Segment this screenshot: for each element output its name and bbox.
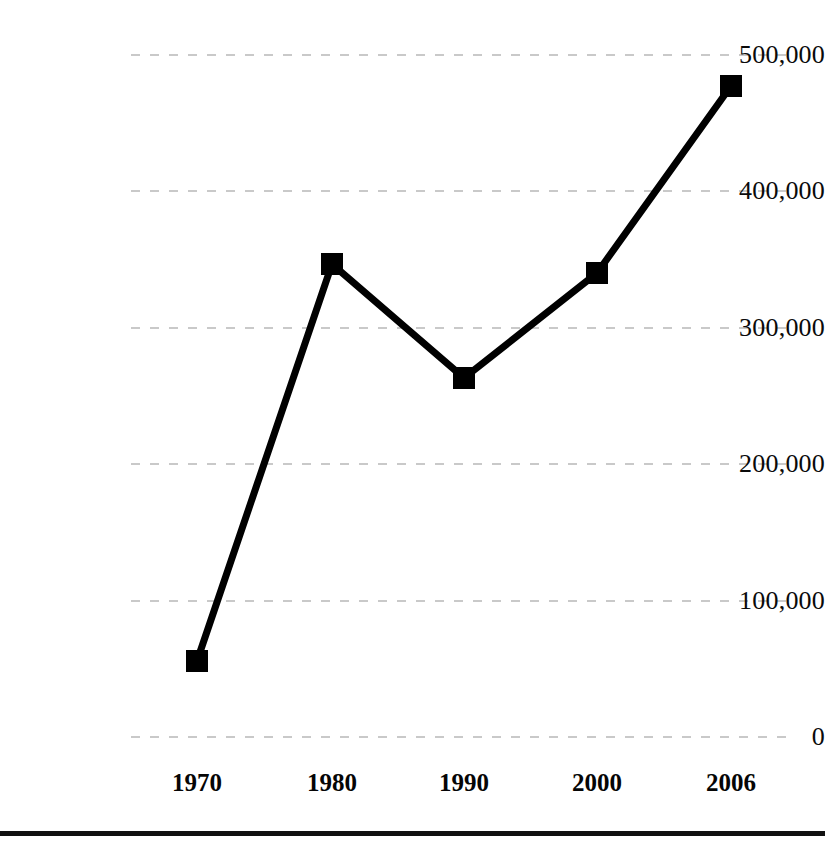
data-point-marker-1970 [186, 650, 208, 672]
x-axis-tick-label-1990: 1990 [399, 770, 529, 795]
y-axis-tick-label-100000: 100,000 [695, 588, 825, 614]
y-axis-tick-label-0: 0 [695, 724, 825, 750]
y-axis-tick-label-200000: 200,000 [695, 451, 825, 477]
data-point-marker-2006 [720, 75, 742, 97]
data-point-marker-1990 [453, 367, 475, 389]
footer-divider-rule [0, 831, 825, 836]
x-axis-tick-label-2006: 2006 [666, 770, 796, 795]
y-axis-tick-label-400000: 400,000 [695, 178, 825, 204]
x-axis-tick-label-1980: 1980 [267, 770, 397, 795]
y-axis-tick-label-300000: 300,000 [695, 315, 825, 341]
data-point-marker-1980 [321, 253, 343, 275]
data-markers-group [186, 75, 742, 672]
x-axis-tick-label-1970: 1970 [132, 770, 262, 795]
chart-container: 500,000 400,000 300,000 200,000 100,000 … [0, 0, 825, 857]
data-point-marker-2000 [586, 262, 608, 284]
gridlines-group [131, 55, 795, 737]
x-axis-tick-label-2000: 2000 [532, 770, 662, 795]
y-axis-tick-label-500000: 500,000 [695, 42, 825, 68]
